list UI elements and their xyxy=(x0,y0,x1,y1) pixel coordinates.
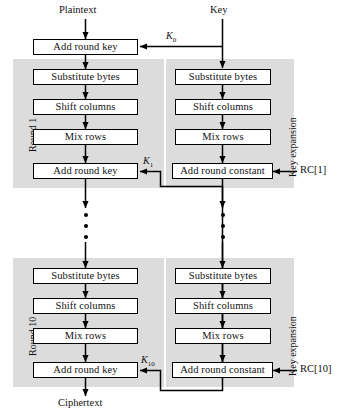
box-label: Mix rows xyxy=(202,331,243,342)
box-label: Shift columns xyxy=(193,301,253,312)
box-label: Mix rows xyxy=(65,331,106,342)
round1-mix-rows-box[interactable]: Mix rows xyxy=(33,129,138,145)
round10-mix-rows-box[interactable]: Mix rows xyxy=(33,328,138,344)
box-label: Add round key xyxy=(53,365,117,376)
subkey-k1-label: K1 xyxy=(143,156,153,169)
subkey-k0-label: K0 xyxy=(166,31,176,44)
round-constant-rc1-label: RC[1] xyxy=(300,165,326,176)
keyexp1-shift-columns-box[interactable]: Shift columns xyxy=(175,99,271,115)
keyexp1-substitute-bytes-box[interactable]: Substitute bytes xyxy=(175,69,271,85)
keyexp1-add-round-constant-box[interactable]: Add round constant xyxy=(172,163,273,179)
ellipsis-dot-right-2 xyxy=(221,224,225,228)
round10-shift-columns-box[interactable]: Shift columns xyxy=(33,298,138,314)
round-constant-rc10-label: RC[10] xyxy=(300,364,332,375)
box-label: Substitute bytes xyxy=(189,271,257,282)
box-label: Substitute bytes xyxy=(51,72,119,83)
keyexp10-add-round-constant-box[interactable]: Add round constant xyxy=(172,362,273,378)
round1-add-round-key-box[interactable]: Add round key xyxy=(33,163,138,179)
key-label: Key xyxy=(210,5,228,16)
keyexp1-mix-rows-box[interactable]: Mix rows xyxy=(175,129,271,145)
ciphertext-label: Ciphertext xyxy=(58,398,102,409)
initial-add-round-key-box[interactable]: Add round key xyxy=(33,39,138,55)
box-label: Mix rows xyxy=(65,132,106,143)
key-expansion-1-label: Key expansion xyxy=(288,117,298,177)
box-label: Mix rows xyxy=(202,132,243,143)
key-expansion-10-label: Key expansion xyxy=(288,316,298,376)
plaintext-label: Plaintext xyxy=(59,5,96,16)
box-label: Add round key xyxy=(53,166,117,177)
subkey-k10-label: K10 xyxy=(141,355,155,368)
keyexp10-shift-columns-box[interactable]: Shift columns xyxy=(175,298,271,314)
ellipsis-dot-right-1 xyxy=(221,213,225,217)
box-label: Add round constant xyxy=(180,166,265,177)
keyexp10-mix-rows-box[interactable]: Mix rows xyxy=(175,328,271,344)
round1-shift-columns-box[interactable]: Shift columns xyxy=(33,99,138,115)
round10-add-round-key-box[interactable]: Add round key xyxy=(33,362,138,378)
ellipsis-dot-right-3 xyxy=(221,235,225,239)
keyexp10-substitute-bytes-box[interactable]: Substitute bytes xyxy=(175,268,271,284)
box-label: Add round constant xyxy=(180,365,265,376)
box-label: Shift columns xyxy=(56,102,116,113)
box-label: Add round key xyxy=(53,42,117,53)
box-label: Substitute bytes xyxy=(51,271,119,282)
box-label: Shift columns xyxy=(193,102,253,113)
ellipsis-dot-left-1 xyxy=(84,213,88,217)
round10-substitute-bytes-box[interactable]: Substitute bytes xyxy=(33,268,138,284)
aes-diagram: Plaintext Key Add round key K0 Round 1 S… xyxy=(0,0,347,417)
ellipsis-dot-left-2 xyxy=(84,224,88,228)
box-label: Shift columns xyxy=(56,301,116,312)
round1-substitute-bytes-box[interactable]: Substitute bytes xyxy=(33,69,138,85)
box-label: Substitute bytes xyxy=(189,72,257,83)
ellipsis-dot-left-3 xyxy=(84,235,88,239)
